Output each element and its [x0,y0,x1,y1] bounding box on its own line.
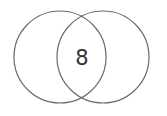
right-set-circle [57,11,149,103]
intersection-label: 8 [75,46,88,70]
venn-diagram: 8 [0,0,167,116]
left-set-circle [14,11,106,103]
